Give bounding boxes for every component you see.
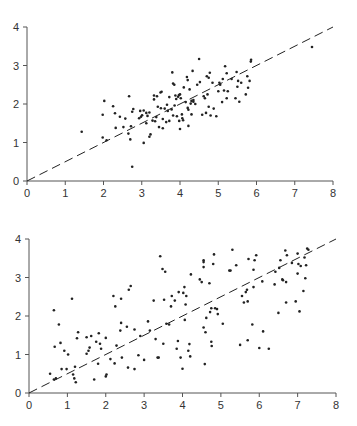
data-point [129,285,132,288]
data-point [139,335,142,338]
data-point [248,80,251,83]
data-point [278,267,281,270]
data-point [185,295,188,298]
bottom-chart-x-tick-label: 0 [26,399,32,411]
data-point [230,78,233,81]
data-point [72,373,75,376]
data-point [162,127,165,130]
data-point [188,343,191,346]
data-point [191,70,194,73]
data-point [207,105,210,108]
data-point [296,252,299,255]
data-point [175,347,178,350]
data-point [154,120,157,123]
data-point [162,342,165,345]
data-point [273,283,276,286]
data-point [202,266,205,269]
scatter-plot-top: 01234567801234 [0,0,357,205]
top-chart-x-tick-label: 3 [139,187,145,199]
data-point [163,299,166,302]
data-point [157,105,160,108]
data-point [114,305,117,308]
data-point [285,301,288,304]
top-chart-x-tick-label: 8 [330,187,336,199]
data-point [245,291,248,294]
data-point [55,377,58,380]
bottom-chart-x-tick-label: 4 [179,399,185,411]
data-point [252,286,255,289]
bottom-chart-x-tick-label: 7 [295,399,301,411]
data-point [180,97,183,100]
data-point [209,72,212,75]
data-point [209,311,212,314]
data-point [152,299,155,302]
data-point [247,87,250,90]
data-point [202,261,205,264]
data-point [85,336,88,339]
data-point [307,249,310,252]
data-point [105,139,108,142]
data-point [255,254,258,257]
bottom-chart-x-tick-label: 5 [218,399,224,411]
top-chart-y-tick-label: 0 [13,175,19,187]
data-point [204,97,207,100]
top-chart-y-tick-label: 1 [13,137,19,149]
data-point [225,72,228,75]
data-point [250,58,253,61]
data-point [73,377,76,380]
data-point [112,295,115,298]
top-chart-x-tick-label: 1 [62,187,68,199]
data-point [163,107,166,110]
data-point [291,262,294,265]
data-point [268,347,271,350]
data-point [128,95,131,98]
data-point [189,355,192,358]
data-point [237,80,240,83]
data-point [127,132,130,135]
bottom-chart-x-tick-label: 8 [333,399,339,411]
data-point [103,100,106,103]
data-point [246,289,249,292]
scatter-plot-top-canvas: 01234567801234 [0,0,357,205]
data-point [190,273,193,276]
data-point [161,268,164,271]
data-point [58,323,61,326]
data-point [133,368,136,371]
data-point [246,339,249,342]
data-point [173,104,176,107]
data-point [154,338,157,341]
data-point [101,114,104,117]
data-point [240,82,243,85]
data-point [235,71,238,74]
data-point [225,97,228,100]
data-point [303,256,306,259]
data-point [212,107,215,110]
data-point [173,84,176,87]
data-point [53,346,56,349]
data-point [187,125,190,128]
data-point [258,347,261,350]
data-point [170,108,173,111]
data-point [53,309,56,312]
data-point [304,277,307,280]
data-point [243,301,246,304]
data-point [114,112,117,115]
data-point [114,127,117,130]
data-point [204,331,207,334]
data-point [112,105,115,108]
data-point [241,295,244,298]
data-point [76,337,79,340]
data-point [179,356,182,359]
data-point [59,342,62,345]
data-point [247,258,250,261]
data-point [175,98,178,101]
data-point [158,126,161,129]
data-point [49,373,52,376]
data-point [279,259,282,262]
data-point [305,264,308,267]
data-point [227,90,230,93]
data-point [100,347,103,350]
data-point [153,98,156,101]
data-point [132,108,135,111]
data-point [165,121,168,124]
